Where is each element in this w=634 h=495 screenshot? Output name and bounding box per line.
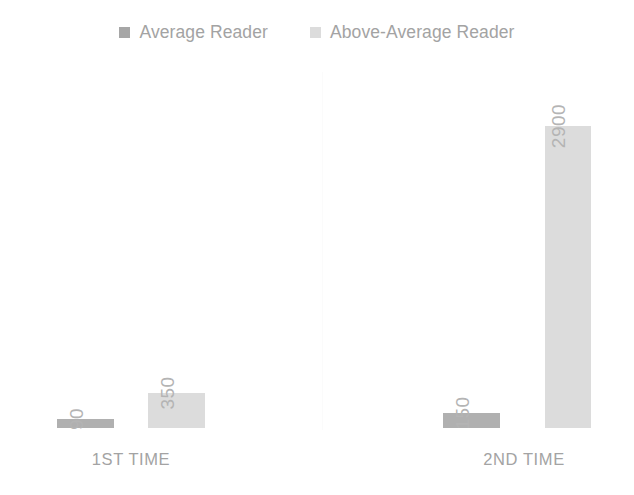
plot-area: 90 350 1ST TIME 150 2900 2ND TIME <box>0 0 634 495</box>
bar-above-average-reader-1st-time[interactable]: 350 <box>148 393 205 428</box>
bar-value-label: 350 <box>158 376 177 409</box>
bar-above-average-reader-2nd-time[interactable]: 2900 <box>545 126 591 428</box>
bar-average-reader-1st-time[interactable]: 90 <box>57 419 114 428</box>
category-label-1st-time: 1ST TIME <box>57 450 205 469</box>
category-label-2nd-time: 2ND TIME <box>450 450 598 469</box>
bar-chart: Average Reader Above-Average Reader 90 3… <box>0 0 634 495</box>
plot-divider <box>322 72 323 430</box>
bar-fill <box>545 126 591 428</box>
bar-value-label: 2900 <box>549 104 568 148</box>
bar-value-label: 150 <box>453 396 472 429</box>
bar-average-reader-2nd-time[interactable]: 150 <box>443 413 500 428</box>
bar-value-label: 90 <box>67 408 86 430</box>
